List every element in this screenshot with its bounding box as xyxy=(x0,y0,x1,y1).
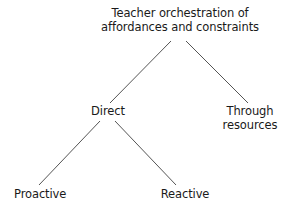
edge-direct-to-reactive xyxy=(115,121,176,185)
edge-direct-to-proactive xyxy=(39,121,100,185)
reactive-node-label: Reactive xyxy=(150,187,220,201)
reactive-node: Reactive xyxy=(150,187,220,201)
edge-root-to-direct xyxy=(110,41,171,103)
direct-node: Direct xyxy=(73,104,143,118)
proactive-node-label: Proactive xyxy=(14,187,84,201)
root-node-line-1: Teacher orchestration of xyxy=(80,6,280,20)
root-node-line-2: affordances and constraints xyxy=(80,20,280,34)
through-resources-node: Through resources xyxy=(220,104,280,132)
tree-diagram: Teacher orchestration of affordances and… xyxy=(0,0,282,210)
direct-node-label: Direct xyxy=(73,104,143,118)
through-resources-line-1: Through xyxy=(220,104,280,118)
edge-root-to-through-resources xyxy=(186,41,248,103)
root-node: Teacher orchestration of affordances and… xyxy=(80,6,280,34)
proactive-node: Proactive xyxy=(4,187,84,201)
through-resources-line-2: resources xyxy=(220,118,280,132)
